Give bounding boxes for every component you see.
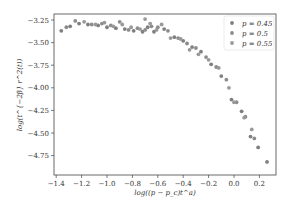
x-tick-label: −1.4 — [48, 180, 66, 188]
data-point — [169, 36, 173, 40]
legend-marker — [230, 31, 234, 35]
data-point — [68, 24, 72, 28]
data-point — [86, 23, 90, 27]
y-tick-label: −3.50 — [28, 39, 49, 47]
data-point — [224, 78, 228, 82]
y-tick-label: −3.25 — [28, 17, 49, 25]
data-point — [250, 127, 254, 131]
x-tick-label: 0.0 — [228, 180, 239, 188]
data-point — [162, 27, 166, 31]
data-point — [155, 28, 159, 32]
data-point — [179, 37, 183, 41]
x-axis-label: log((p − p_c)t^a) — [134, 189, 196, 197]
legend-label: p = 0.45 — [242, 20, 273, 28]
data-point — [232, 100, 236, 104]
data-point — [129, 25, 133, 29]
legend: p = 0.45p = 0.5p = 0.55 — [224, 16, 274, 50]
data-point — [77, 22, 81, 26]
y-tick-label: −4.00 — [28, 84, 49, 92]
data-point — [82, 20, 86, 24]
data-point — [249, 135, 253, 139]
data-point — [94, 23, 98, 27]
data-point — [197, 52, 201, 56]
data-point — [172, 35, 176, 39]
data-point — [111, 24, 115, 28]
data-point — [90, 23, 94, 27]
data-point — [194, 46, 198, 50]
data-point — [120, 23, 124, 27]
data-point — [242, 116, 246, 120]
data-point — [160, 23, 164, 27]
x-tick-label: −0.2 — [200, 180, 217, 188]
x-tick-label: −1.0 — [99, 180, 116, 188]
x-tick-label: −0.4 — [175, 180, 193, 188]
data-point — [240, 109, 244, 113]
data-point — [227, 86, 231, 90]
x-tick-label: −0.6 — [149, 180, 167, 188]
data-point — [219, 74, 223, 78]
x-tick-label: −0.8 — [124, 180, 141, 188]
scatter-chart: −1.4−1.2−1.0−0.8−0.6−0.4−0.20.00.2 −3.25… — [0, 0, 288, 207]
data-point — [103, 21, 107, 25]
data-point — [256, 146, 260, 150]
legend-marker — [230, 41, 234, 45]
y-tick-label: −4.75 — [28, 152, 49, 160]
y-axis-label: log(t^{−2β} r^2(t)) — [16, 58, 24, 131]
legend-label: p = 0.55 — [242, 40, 273, 48]
x-tick-label: 0.2 — [254, 180, 265, 188]
data-point — [217, 66, 221, 70]
data-point — [123, 27, 127, 31]
data-point — [209, 62, 213, 66]
data-point — [185, 42, 189, 46]
data-point — [64, 25, 68, 29]
y-tick-label: −3.75 — [28, 62, 49, 70]
y-tick-label: −4.50 — [28, 130, 49, 138]
y-axis-ticks: −3.25−3.50−3.75−4.00−4.25−4.50−4.75 — [28, 17, 54, 161]
data-point — [252, 137, 256, 141]
x-axis-ticks: −1.4−1.2−1.0−0.8−0.6−0.4−0.20.00.2 — [48, 175, 265, 188]
data-point — [148, 22, 152, 26]
legend-marker — [230, 21, 234, 25]
data-point — [59, 29, 63, 33]
data-point — [265, 160, 269, 164]
data-point — [138, 27, 142, 31]
data-point — [73, 19, 77, 23]
data-point — [132, 29, 136, 33]
legend-label: p = 0.5 — [242, 30, 268, 38]
data-point — [188, 48, 192, 52]
x-tick-label: −1.2 — [73, 180, 90, 188]
data-point — [143, 28, 147, 32]
y-tick-label: −4.25 — [28, 107, 49, 115]
data-point — [105, 25, 109, 29]
data-point — [207, 58, 211, 62]
data-point — [143, 17, 147, 21]
data-point — [166, 29, 170, 33]
